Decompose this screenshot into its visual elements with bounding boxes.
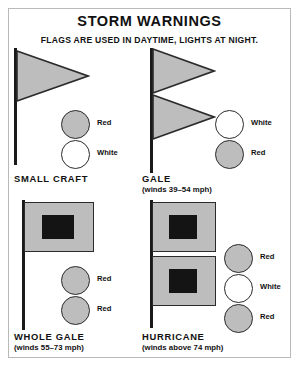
lamp-label: White [251, 118, 272, 127]
warning-name: HURRICANE [142, 332, 223, 343]
warning-gale: White Red GALE (winds 39–54 mph) [142, 48, 290, 194]
lamp-red-icon [215, 140, 244, 169]
lamp-label: White [97, 148, 118, 157]
warning-name: GALE [142, 174, 212, 185]
lamp-label: Red [260, 312, 274, 321]
lamp-red-icon [61, 296, 90, 325]
pennant-flag [152, 94, 216, 140]
lamp-red-icon [61, 110, 90, 139]
lamp-label: Red [97, 304, 111, 313]
flag-black-center [169, 269, 197, 293]
caption-small-craft: SMALL CRAFT [14, 174, 88, 185]
warning-whole-gale: Red Red WHOLE GALE (winds 55–73 mph) [14, 200, 142, 358]
poster-header: STORM WARNINGS FLAGS ARE USED IN DAYTIME… [8, 10, 291, 45]
poster-subtitle: FLAGS ARE USED IN DAYTIME, LIGHTS AT NIG… [8, 35, 291, 45]
lamp-red-icon [224, 244, 253, 273]
warning-winds: (winds above 74 mph) [142, 344, 223, 353]
storm-warnings-poster: STORM WARNINGS FLAGS ARE USED IN DAYTIME… [0, 0, 301, 368]
page-title: STORM WARNINGS [8, 14, 291, 30]
lamp-label: Red [97, 274, 111, 283]
lamp-label: White [260, 282, 281, 291]
warning-name: SMALL CRAFT [14, 174, 88, 185]
flag-black-center [169, 215, 197, 239]
warning-name: WHOLE GALE [14, 332, 85, 343]
lamp-label: Red [97, 118, 111, 127]
lamp-white-icon [215, 110, 244, 139]
caption-gale: GALE (winds 39–54 mph) [142, 174, 212, 195]
warning-winds: (winds 55–73 mph) [14, 344, 85, 353]
flag-black-center [42, 215, 74, 239]
warning-small-craft: Red White SMALL CRAFT [14, 48, 142, 194]
lamp-label: Red [251, 148, 265, 157]
square-flag [152, 202, 216, 252]
warning-hurricane: Red White Red HURRICANE (winds above 74 … [142, 200, 290, 358]
square-flag [152, 256, 216, 306]
lamp-red-icon [61, 266, 90, 295]
lamp-label: Red [260, 252, 274, 261]
lamp-white-icon [224, 274, 253, 303]
square-flag [24, 202, 94, 252]
pennant-flag [152, 48, 216, 94]
lamp-red-icon [224, 304, 253, 333]
warning-winds: (winds 39–54 mph) [142, 186, 212, 195]
caption-whole-gale: WHOLE GALE (winds 55–73 mph) [14, 332, 85, 353]
pennant-flag [16, 50, 90, 102]
caption-hurricane: HURRICANE (winds above 74 mph) [142, 332, 223, 353]
lamp-white-icon [61, 140, 90, 169]
